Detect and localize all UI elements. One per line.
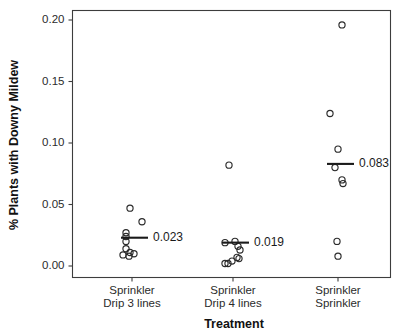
y-tick-label: 0.05 — [42, 198, 64, 210]
x-axis-ticks — [132, 278, 338, 282]
data-point — [127, 205, 133, 211]
x-tick-label-line: Drip 3 lines — [103, 297, 161, 309]
data-point — [226, 162, 232, 168]
y-axis-title: % Plants with Downy Mildew — [7, 60, 21, 230]
x-tick-label-line: Sprinkler — [210, 284, 256, 296]
data-point — [335, 146, 341, 152]
data-point — [131, 251, 137, 257]
data-point — [335, 253, 341, 259]
data-point — [334, 238, 340, 244]
data-point — [236, 256, 242, 262]
dot-plot-svg: 0.000.050.100.150.20 0.0230.0190.083 Spr… — [0, 0, 396, 333]
mean-value-label: 0.023 — [153, 230, 183, 244]
mean-value-label: 0.019 — [254, 235, 284, 249]
data-point — [123, 246, 129, 252]
x-tick-label-line: Drip 4 lines — [204, 297, 262, 309]
data-point — [139, 219, 145, 225]
data-point — [237, 247, 243, 253]
y-tick-label: 0.20 — [42, 13, 64, 25]
x-tick-labels: SprinklerDrip 3 linesSprinklerDrip 4 lin… — [103, 284, 361, 309]
y-tick-label: 0.00 — [42, 259, 64, 271]
plot-frame — [73, 11, 391, 278]
mean-value-label: 0.083 — [359, 156, 389, 170]
data-point — [339, 22, 345, 28]
x-axis-title: Treatment — [204, 317, 265, 331]
chart-figure: 0.000.050.100.150.20 0.0230.0190.083 Spr… — [0, 0, 396, 333]
data-point — [340, 180, 346, 186]
data-point — [235, 243, 241, 249]
y-tick-label: 0.15 — [42, 75, 64, 87]
mean-annotations-layer: 0.0230.0190.083 — [153, 156, 389, 249]
x-tick-label-line: Sprinkler — [315, 297, 361, 309]
x-tick-label-line: Sprinkler — [109, 284, 155, 296]
data-point — [327, 110, 333, 116]
y-tick-label: 0.10 — [42, 136, 64, 148]
x-tick-label-line: Sprinkler — [315, 284, 361, 296]
data-point — [120, 252, 126, 258]
data-point — [332, 165, 338, 171]
y-axis-ticks: 0.000.050.100.150.20 — [42, 13, 72, 271]
